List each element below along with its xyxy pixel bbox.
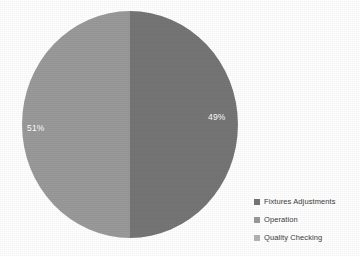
pie-chart-graphic <box>22 11 238 238</box>
legend-item-operation[interactable]: Operation <box>254 211 358 229</box>
pie-svg <box>22 11 238 238</box>
legend-item-fixtures-adjustments[interactable]: Fixtures Adjustments <box>254 193 358 211</box>
pie-slice-fixtures-adjustments[interactable] <box>130 11 238 238</box>
legend-swatch-icon <box>254 235 260 241</box>
legend-swatch-icon <box>254 199 260 205</box>
legend-item-quality-checking[interactable]: Quality Checking <box>254 229 358 247</box>
pie-slice-label-fixtures-adjustments: 49% <box>208 113 226 122</box>
legend-item-label: Operation <box>264 216 298 224</box>
legend-item-label: Fixtures Adjustments <box>264 198 336 206</box>
chart-legend: Fixtures Adjustments Operation Quality C… <box>254 193 358 247</box>
legend-swatch-icon <box>254 217 260 223</box>
pie-slice-label-operation: 51% <box>27 124 45 133</box>
pie-chart-figure: 49% 51% Fixtures Adjustments Operation Q… <box>0 0 360 256</box>
legend-item-label: Quality Checking <box>264 234 322 242</box>
